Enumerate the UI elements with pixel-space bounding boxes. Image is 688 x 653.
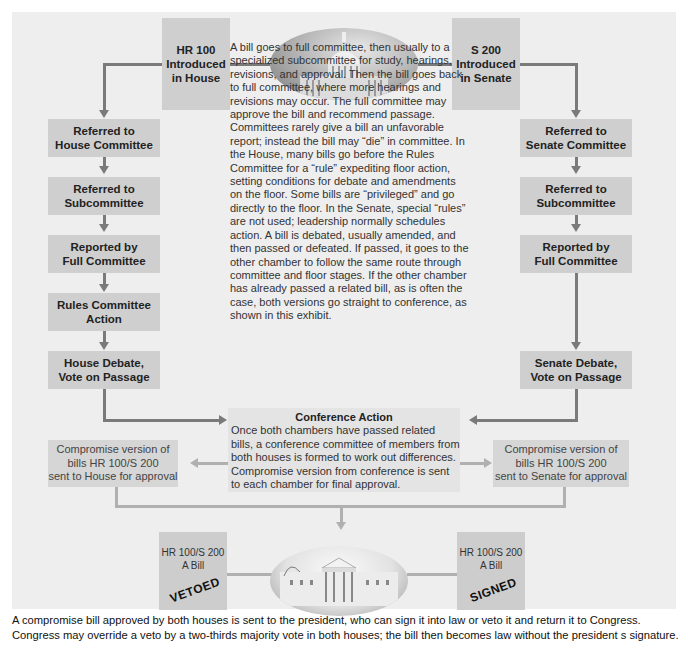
white-house-icon — [270, 546, 408, 616]
house-step-reported-full: Reported byFull Committee — [48, 235, 160, 273]
connector — [104, 63, 162, 66]
compromise-line2: bills HR 100/S 200 — [48, 457, 177, 470]
connector — [340, 508, 343, 523]
bill-vetoed-box: HR 100/S 200 A Bill VETOED — [159, 532, 227, 610]
conference-action-box: Conference Action Once both chambers hav… — [228, 408, 460, 492]
senate-step-debate-vote: Senate Debate,Vote on Passage — [520, 351, 632, 389]
senate-step-referred-committee: Referred toSenate Committee — [520, 119, 632, 157]
connector — [115, 487, 118, 507]
caption-line2: Congress may override a veto by a two-th… — [12, 628, 688, 643]
step-line2: Subcommittee — [64, 196, 143, 210]
step-line1: Referred to — [55, 124, 153, 138]
house-step-debate-vote: House Debate,Vote on Passage — [48, 351, 160, 389]
house-start-line1: HR 100 — [166, 43, 225, 57]
bill-signed-box: HR 100/S 200 A Bill SIGNED — [457, 532, 525, 610]
connector — [575, 273, 578, 343]
compromise-line3: sent to Senate for approval — [495, 470, 627, 483]
senate-step-reported-full: Reported byFull Committee — [520, 235, 632, 273]
connector — [407, 573, 457, 576]
step-line1: Reported by — [534, 240, 617, 254]
house-start-line3: in House — [166, 71, 225, 85]
arrow-down-icon — [99, 166, 109, 174]
bill-line2: A Bill — [457, 559, 525, 572]
caption-line1: A compromise bill approved by both house… — [12, 613, 688, 628]
arrow-down-icon — [99, 224, 109, 232]
arrow-down-icon — [99, 284, 109, 292]
connector — [227, 573, 272, 576]
compromise-line1: Compromise version of — [48, 443, 177, 456]
house-step-referred-subcommittee: Referred toSubcommittee — [48, 177, 160, 215]
step-line2: House Committee — [55, 138, 153, 152]
house-start-box: HR 100 Introduced in House — [162, 18, 230, 110]
step-line1: Reported by — [62, 240, 145, 254]
step-line2: Subcommittee — [536, 196, 615, 210]
connector — [476, 419, 578, 422]
compromise-line2: bills HR 100/S 200 — [495, 457, 627, 470]
step-line1: House Debate, — [58, 356, 149, 370]
house-step-referred-committee: Referred toHouse Committee — [48, 119, 160, 157]
connector — [103, 389, 106, 421]
bill-line1: HR 100/S 200 — [457, 546, 525, 559]
step-line1: Rules Committee — [57, 298, 151, 312]
house-start-line2: Introduced — [166, 57, 225, 71]
step-line2: Senate Committee — [526, 138, 626, 152]
step-line2: Vote on Passage — [530, 370, 621, 384]
connector — [575, 389, 578, 421]
step-line2: Full Committee — [62, 254, 145, 268]
arrow-right-icon — [484, 458, 492, 468]
connector — [563, 487, 566, 507]
connector — [460, 462, 485, 465]
compromise-house-box: Compromise version ofbills HR 100/S 200s… — [48, 440, 178, 487]
house-step-rules-committee: Rules CommitteeAction — [48, 293, 160, 331]
step-line1: Senate Debate, — [530, 356, 621, 370]
compromise-line3: sent to House for approval — [48, 470, 177, 483]
connector — [198, 462, 228, 465]
arrow-down-icon — [99, 342, 109, 350]
step-line1: Referred to — [536, 182, 615, 196]
step-line2: Vote on Passage — [58, 370, 149, 384]
senate-step-referred-subcommittee: Referred toSubcommittee — [520, 177, 632, 215]
connector — [103, 63, 106, 113]
arrow-down-icon — [99, 110, 109, 118]
arrow-right-icon — [219, 415, 227, 425]
process-description: A bill goes to full committee, then usua… — [230, 41, 470, 323]
vetoed-stamp: VETOED — [168, 575, 221, 605]
connector — [520, 63, 576, 66]
white-house-image — [270, 546, 408, 616]
step-line1: Referred to — [64, 182, 143, 196]
bill-line1: HR 100/S 200 — [159, 546, 227, 559]
arrow-down-icon — [571, 110, 581, 118]
step-line2: Full Committee — [534, 254, 617, 268]
compromise-line1: Compromise version of — [495, 443, 627, 456]
arrow-left-icon — [190, 458, 198, 468]
arrow-down-icon — [571, 342, 581, 350]
connector — [575, 63, 578, 113]
compromise-senate-box: Compromise version ofbills HR 100/S 200s… — [493, 440, 629, 487]
signed-stamp: SIGNED — [468, 576, 519, 605]
figure-caption: A compromise bill approved by both house… — [12, 613, 688, 642]
connector — [103, 419, 221, 422]
step-line1: Referred to — [526, 124, 626, 138]
arrow-left-icon — [469, 415, 477, 425]
step-line2: Action — [57, 312, 151, 326]
arrow-down-icon — [571, 166, 581, 174]
conference-title: Conference Action — [228, 411, 460, 424]
arrow-down-icon — [336, 522, 346, 530]
arrow-down-icon — [571, 224, 581, 232]
bill-line2: A Bill — [159, 559, 227, 572]
conference-body: Once both chambers have passed related b… — [228, 424, 460, 491]
